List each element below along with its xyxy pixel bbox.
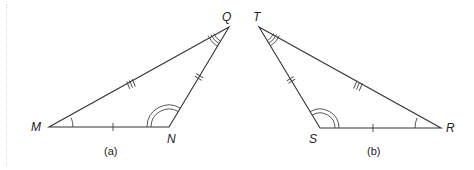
angle-m-single-arc xyxy=(71,118,73,127)
vertex-label-s: S xyxy=(309,132,317,146)
angle-r-single-arc xyxy=(415,118,417,128)
vertex-label-r: R xyxy=(446,121,455,135)
vertex-label-q: Q xyxy=(222,10,231,24)
vertex-label-m: M xyxy=(31,120,41,134)
triangles-svg: M N Q (a) xyxy=(0,0,474,170)
caption-b: (b) xyxy=(367,145,380,157)
triangle-a: M N Q (a) xyxy=(31,10,231,157)
side-tr-triple-tick xyxy=(354,81,363,91)
congruent-triangles-figure: M N Q (a) xyxy=(0,0,474,170)
caption-a: (a) xyxy=(104,145,117,157)
side-mq-triple-tick xyxy=(127,79,136,89)
vertex-label-t: T xyxy=(253,10,262,24)
triangle-b: T S R (b) xyxy=(253,10,455,157)
triangle-b-outline xyxy=(259,27,441,128)
vertex-label-n: N xyxy=(167,132,176,146)
